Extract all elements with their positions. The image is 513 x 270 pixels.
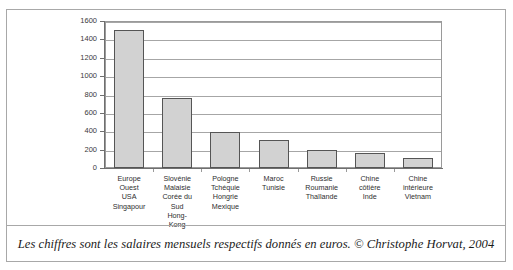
caption-block: Les chiffres sont les salaires mensuels … (7, 226, 505, 262)
x-tick-mark (346, 169, 347, 172)
category-label-line: Thaïlande (298, 192, 346, 201)
x-tick-mark (394, 169, 395, 172)
y-tick-mark (100, 150, 104, 151)
y-tick-label: 1600 (29, 17, 97, 25)
category-label-line: Maroc (249, 174, 297, 183)
y-tick-mark (100, 131, 104, 132)
gridline (106, 77, 441, 78)
y-tick-label-text: 0 (35, 164, 97, 172)
y-tick-label: 800 (29, 91, 97, 99)
y-tick-label: 200 (29, 146, 97, 154)
x-tick-mark (298, 169, 299, 172)
y-tick-label-text: 1600 (35, 17, 97, 25)
category-label-line: USA (105, 192, 153, 201)
bar (355, 153, 385, 168)
y-tick-label-text: 1200 (35, 54, 97, 62)
category-label-line: Hongrie (201, 192, 249, 201)
bar-chart: 02004006008001000120014001600 EuropeOues… (7, 10, 505, 225)
y-tick-mark (100, 95, 104, 96)
y-tick-label: 0 (29, 164, 97, 172)
bar (403, 158, 433, 168)
category-label-line: Tchéquie (201, 183, 249, 192)
y-tick-label-text: 200 (35, 146, 97, 154)
category-label: EuropeOuestUSASingapour (105, 174, 153, 211)
category-label: MarocTunisie (249, 174, 297, 192)
gridline (106, 40, 441, 41)
category-label-line: Chine (346, 174, 394, 183)
y-tick-mark (100, 76, 104, 77)
gridline (106, 96, 441, 97)
y-tick-label: 1000 (29, 72, 97, 80)
category-label: RussieRoumanieThaïlande (298, 174, 346, 202)
y-tick-label-text: 400 (35, 127, 97, 135)
category-label-line: côtière (346, 183, 394, 192)
category-label-line: Hong- (153, 211, 201, 220)
category-label-line: intérieure (394, 183, 442, 192)
y-tick-label: 600 (29, 109, 97, 117)
category-label-line: Corée du (153, 192, 201, 201)
y-axis-line (104, 21, 105, 169)
category-label: SlovénieMalaisieCorée duSudHong-Kong (153, 174, 201, 229)
y-tick-mark (100, 58, 104, 59)
caption-text: Les chiffres sont les salaires mensuels … (18, 237, 495, 252)
gridline (106, 114, 441, 115)
gridline (106, 59, 441, 60)
bar (307, 150, 337, 168)
category-label: ChinecôtièreInde (346, 174, 394, 202)
category-label-line: Roumanie (298, 183, 346, 192)
category-label: PologneTchéquieHongrieMexique (201, 174, 249, 211)
y-tick-mark (100, 39, 104, 40)
category-label-line: Sud (153, 202, 201, 211)
category-label-line: Malaisie (153, 183, 201, 192)
category-label-line: Mexique (201, 202, 249, 211)
category-label-line: Pologne (201, 174, 249, 183)
y-tick-label-text: 600 (35, 109, 97, 117)
x-tick-mark (249, 169, 250, 172)
category-label-line: Singapour (105, 202, 153, 211)
y-tick-mark (100, 21, 104, 22)
category-label: ChineintérieureVietnam (394, 174, 442, 202)
top-cut-text-strip (0, 0, 513, 8)
bar (210, 132, 240, 168)
figure-frame: 02004006008001000120014001600 EuropeOues… (6, 9, 506, 262)
y-tick-label: 1200 (29, 54, 97, 62)
y-tick-label: 1400 (29, 35, 97, 43)
bar (162, 98, 192, 168)
category-label-line: Inde (346, 192, 394, 201)
category-label-line: Ouest (105, 183, 153, 192)
x-tick-mark (153, 169, 154, 172)
category-label-line: Europe (105, 174, 153, 183)
category-label-line: Chine (394, 174, 442, 183)
y-tick-label-text: 1000 (35, 72, 97, 80)
x-axis-line (104, 168, 443, 169)
bar (259, 140, 289, 168)
y-tick-label-text: 800 (35, 91, 97, 99)
bar (114, 30, 144, 168)
gridline (106, 132, 441, 133)
x-tick-mark (201, 169, 202, 172)
category-label-line: Vietnam (394, 192, 442, 201)
y-tick-label-text: 1400 (35, 35, 97, 43)
y-tick-label: 400 (29, 127, 97, 135)
gridline (106, 22, 441, 23)
category-label-line: Slovénie (153, 174, 201, 183)
category-label-line: Tunisie (249, 183, 297, 192)
y-tick-mark (100, 113, 104, 114)
category-label-line: Russie (298, 174, 346, 183)
y-tick-mark (100, 168, 104, 169)
